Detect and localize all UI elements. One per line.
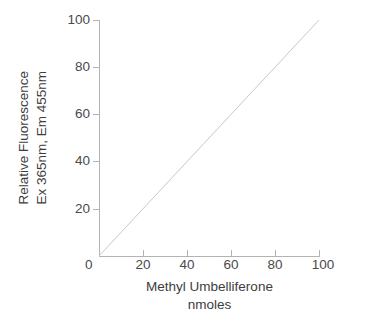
y-axis-title: Relative Fluorescence Ex 365nm, Em 455nm (0, 0, 66, 276)
y-axis-tick-20 (93, 209, 99, 210)
y-axis-label-60: 60 (75, 107, 90, 121)
x-axis-line (99, 256, 320, 257)
x-axis-tick-100 (319, 250, 320, 256)
y-axis-tick-40 (93, 161, 99, 162)
x-axis-title: Methyl Umbelliferone nmoles (99, 278, 320, 313)
y-axis-tick-100 (93, 20, 99, 21)
x-axis-label-40: 40 (179, 258, 194, 272)
x-axis-tick-40 (187, 250, 188, 256)
y-axis-line (99, 20, 100, 257)
y-axis-tick-80 (93, 67, 99, 68)
x-axis-label-60: 60 (223, 258, 238, 272)
y-axis-label-100: 100 (67, 13, 90, 27)
y-axis-title-line-1: Relative Fluorescence (15, 71, 33, 205)
y-axis-tick-60 (93, 114, 99, 115)
x-axis-title-line-1: Methyl Umbelliferone (99, 278, 320, 296)
x-axis-label-80: 80 (267, 258, 282, 272)
data-series-line (99, 20, 319, 256)
fluorescence-standard-curve-chart: 100 80 60 40 20 0 20 40 60 80 100 Relati… (0, 0, 366, 324)
x-axis-label-0: 0 (85, 258, 93, 272)
x-axis-tick-20 (143, 250, 144, 256)
y-axis-label-80: 80 (75, 60, 90, 74)
y-axis-label-40: 40 (75, 154, 90, 168)
x-axis-label-20: 20 (135, 258, 150, 272)
x-axis-label-100: 100 (312, 258, 335, 272)
x-axis-title-line-2: nmoles (99, 296, 320, 314)
x-axis-tick-60 (231, 250, 232, 256)
y-axis-title-line-2: Ex 365nm, Em 455nm (33, 71, 51, 205)
y-axis-label-20: 20 (75, 202, 90, 216)
x-axis-tick-80 (275, 250, 276, 256)
